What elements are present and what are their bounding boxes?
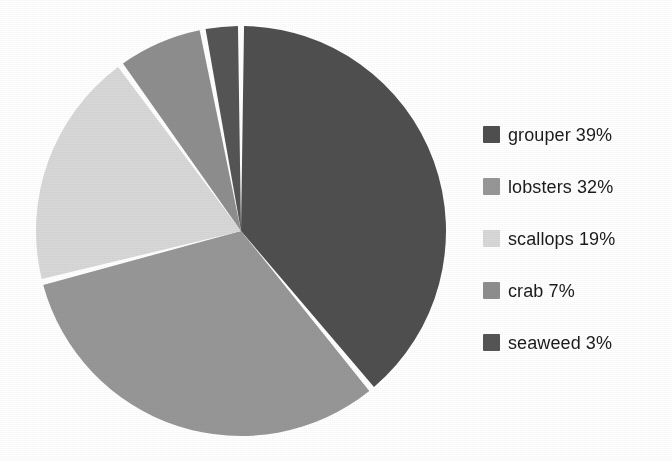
legend-swatch-scallops	[483, 230, 500, 247]
legend-label-scallops: scallops 19%	[508, 230, 615, 248]
legend-item-crab[interactable]: crab 7%	[483, 282, 663, 299]
pie-chart-figure: grouper 39% lobsters 32% scallops 19% cr…	[0, 0, 672, 461]
legend-item-scallops[interactable]: scallops 19%	[483, 230, 663, 247]
legend-label-lobsters: lobsters 32%	[508, 178, 613, 196]
chart-legend: grouper 39% lobsters 32% scallops 19% cr…	[483, 126, 663, 351]
legend-item-lobsters[interactable]: lobsters 32%	[483, 178, 663, 195]
legend-label-grouper: grouper 39%	[508, 126, 612, 144]
pie-chart-svg	[36, 22, 448, 442]
legend-swatch-grouper	[483, 126, 500, 143]
legend-swatch-crab	[483, 282, 500, 299]
legend-swatch-lobsters	[483, 178, 500, 195]
legend-item-grouper[interactable]: grouper 39%	[483, 126, 663, 143]
pie-slice-group	[36, 26, 446, 436]
legend-label-crab: crab 7%	[508, 282, 575, 300]
pie-chart-plot-area	[36, 22, 448, 442]
legend-item-seaweed[interactable]: seaweed 3%	[483, 334, 663, 351]
legend-label-seaweed: seaweed 3%	[508, 334, 612, 352]
legend-swatch-seaweed	[483, 334, 500, 351]
